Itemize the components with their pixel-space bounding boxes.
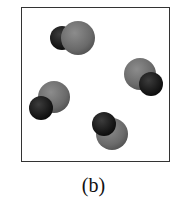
molecule-scene — [0, 0, 177, 203]
molecule-2 — [124, 58, 163, 96]
molecule-1 — [50, 21, 95, 55]
small-atom — [92, 112, 116, 136]
small-atom — [29, 96, 53, 120]
molecule-3 — [29, 81, 70, 120]
figure-label: (b) — [0, 174, 177, 197]
molecule-4 — [92, 112, 128, 150]
large-atom — [61, 21, 95, 55]
small-atom — [139, 72, 163, 96]
